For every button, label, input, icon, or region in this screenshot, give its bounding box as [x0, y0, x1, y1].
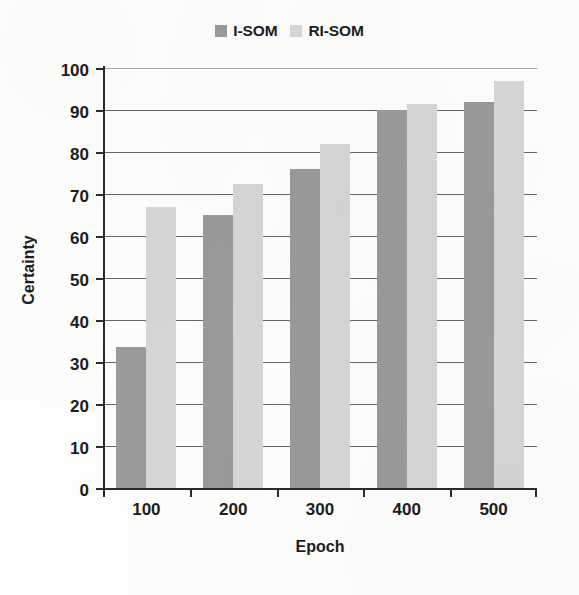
y-axis-title-text: Certainty: [20, 235, 38, 304]
legend-swatch-i-som: [215, 25, 227, 37]
legend-swatch-ri-som: [290, 25, 302, 37]
bar-i-som-300: [290, 169, 320, 488]
x-tick-2: [277, 488, 279, 497]
bar-ri-som-400: [407, 104, 437, 488]
y-tick-label-90: 90: [70, 104, 89, 121]
y-tick-10: 10: [96, 446, 103, 448]
bar-ri-som-100: [146, 207, 176, 488]
x-tick-4: [450, 488, 452, 497]
y-tick-20: 20: [96, 404, 103, 406]
legend-item-i-som: I-SOM: [215, 22, 277, 40]
y-tick-label-100: 100: [61, 62, 89, 79]
y-tick-50: 50: [96, 278, 103, 280]
y-tick-60: 60: [96, 236, 103, 238]
y-tick-100: 100: [96, 68, 103, 70]
y-tick-80: 80: [96, 152, 103, 154]
y-tick-90: 90: [96, 110, 103, 112]
x-tick-5: [535, 488, 537, 497]
bar-ri-som-500: [494, 81, 524, 488]
x-axis-tick-labels: 100200300400500: [103, 500, 537, 528]
legend-label-i-som: I-SOM: [233, 22, 277, 40]
plot-area: [103, 68, 537, 488]
y-axis-ticks: 1009080706050403020100: [96, 68, 103, 488]
x-tick-label-100: 100: [132, 500, 160, 520]
bar-i-som-100: [116, 347, 146, 488]
x-tick-0: [103, 488, 105, 497]
x-tick-1: [190, 488, 192, 497]
y-axis-title: Certainty: [10, 0, 48, 595]
x-tick-label-400: 400: [393, 500, 421, 520]
y-tick-30: 30: [96, 362, 103, 364]
y-tick-label-10: 10: [70, 440, 89, 457]
y-tick-label-40: 40: [70, 314, 89, 331]
y-tick-0: 0: [96, 488, 103, 490]
bar-i-som-500: [464, 102, 494, 488]
bar-i-som-200: [203, 215, 233, 488]
legend-item-ri-som: RI-SOM: [290, 22, 363, 40]
y-tick-label-70: 70: [70, 188, 89, 205]
bar-ri-som-300: [320, 144, 350, 488]
y-tick-40: 40: [96, 320, 103, 322]
y-tick-label-50: 50: [70, 272, 89, 289]
y-tick-label-20: 20: [70, 398, 89, 415]
y-tick-label-30: 30: [70, 356, 89, 373]
x-axis-title: Epoch: [103, 538, 537, 556]
x-axis-ticks: [103, 488, 537, 497]
y-tick-70: 70: [96, 194, 103, 196]
y-tick-label-0: 0: [80, 482, 89, 499]
x-tick-3: [363, 488, 365, 497]
x-tick-label-200: 200: [219, 500, 247, 520]
chart-legend: I-SOM RI-SOM: [0, 22, 579, 40]
legend-label-ri-som: RI-SOM: [308, 22, 363, 40]
y-tick-label-80: 80: [70, 146, 89, 163]
y-tick-label-60: 60: [70, 230, 89, 247]
x-tick-label-500: 500: [479, 500, 507, 520]
bar-ri-som-200: [233, 184, 263, 489]
y-axis-line: [103, 66, 105, 490]
gridline-100: [103, 68, 537, 69]
bar-i-som-400: [377, 110, 407, 488]
x-tick-label-300: 300: [306, 500, 334, 520]
chart-figure: I-SOM RI-SOM Certainty 10090807060504030…: [0, 0, 579, 595]
